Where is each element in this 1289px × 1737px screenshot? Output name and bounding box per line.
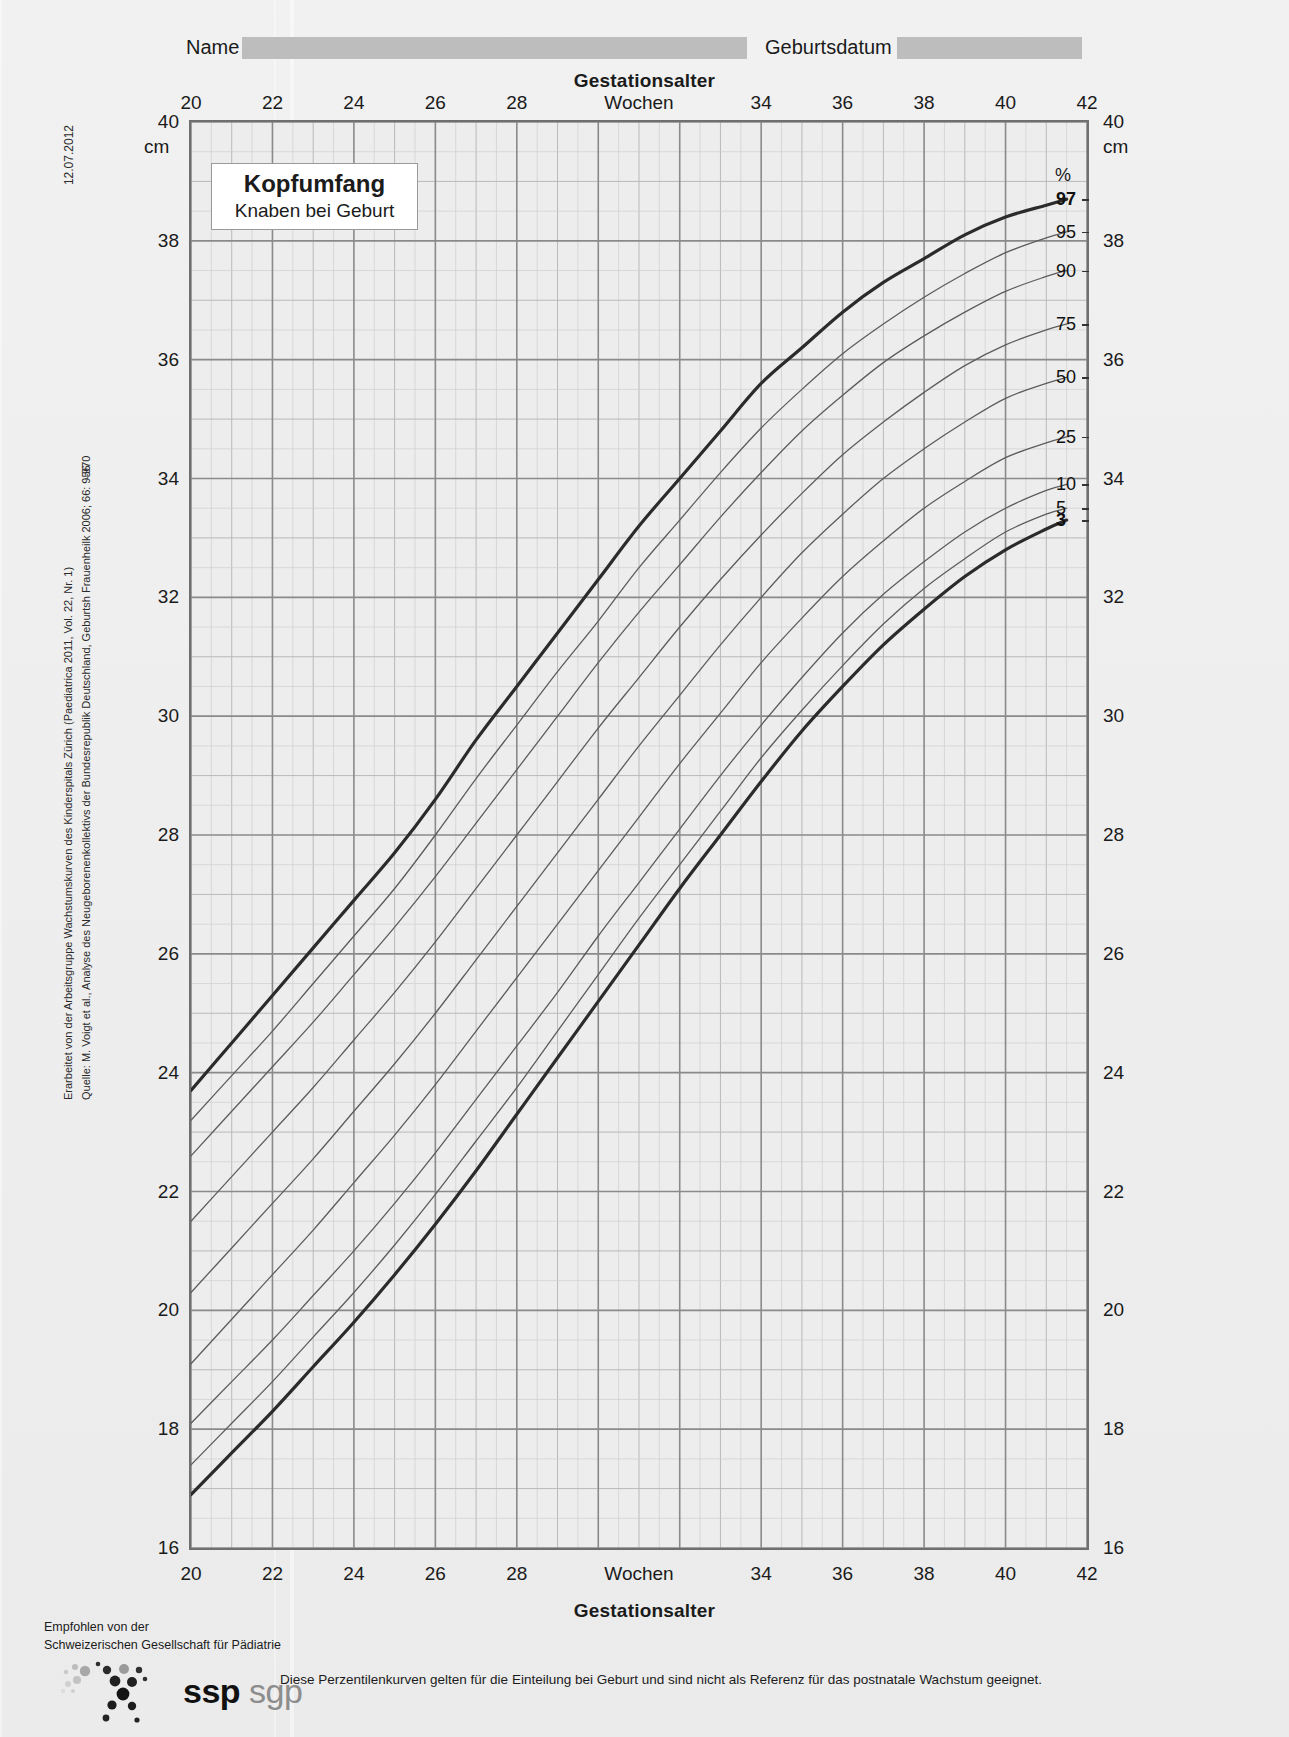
x-tick-22: 22	[262, 92, 283, 114]
chart-plot-area	[189, 120, 1089, 1550]
percentile-tick-97	[1082, 199, 1089, 201]
x-tick-42: 42	[1076, 92, 1097, 114]
x-tick-wochen: Wochen	[604, 1563, 673, 1585]
y-tick-28-left: 28	[141, 824, 179, 846]
y-unit-top-right: cm	[1103, 136, 1128, 158]
y-tick-20-right: 20	[1103, 1299, 1124, 1321]
chart-title-box: Kopfumfang Knaben bei Geburt	[211, 163, 418, 230]
source-note-line2-tail: –970	[80, 456, 92, 480]
x-axis-ticks-top: 2022242628Wochen3436384042	[0, 92, 1289, 116]
y-tick-18-right: 18	[1103, 1418, 1124, 1440]
percentile-label-50: 50	[1056, 367, 1076, 388]
y-tick-20-left: 20	[141, 1299, 179, 1321]
x-tick-38: 38	[914, 1563, 935, 1585]
chart-subtitle: Knaben bei Geburt	[235, 199, 395, 223]
name-input[interactable]	[242, 37, 747, 59]
x-tick-28: 28	[506, 92, 527, 114]
y-tick-32-right: 32	[1103, 586, 1124, 608]
percentile-tick-25	[1082, 437, 1089, 439]
source-note-line1: Erarbeitet von der Arbeitsgruppe Wachstu…	[62, 567, 74, 1100]
chart-grid-and-curves	[191, 122, 1087, 1548]
percentile-label-25: 25	[1056, 426, 1076, 447]
y-tick-34-left: 34	[141, 468, 179, 490]
x-tick-26: 26	[425, 1563, 446, 1585]
y-tick-36-right: 36	[1103, 349, 1124, 371]
x-tick-26: 26	[425, 92, 446, 114]
x-axis-title-top: Gestationsalter	[0, 70, 1289, 92]
y-tick-24-left: 24	[141, 1062, 179, 1084]
y-tick-34-right: 34	[1103, 468, 1124, 490]
x-tick-42: 42	[1076, 1563, 1097, 1585]
percentile-tick-3	[1082, 520, 1089, 522]
y-tick-28-right: 28	[1103, 824, 1124, 846]
y-tick-30-left: 30	[141, 705, 179, 727]
percentile-label-90: 90	[1056, 260, 1076, 281]
recommendation-line1: Empfohlen von der	[44, 1618, 281, 1636]
y-tick-16-left: 16	[141, 1537, 179, 1559]
y-tick-30-right: 30	[1103, 705, 1124, 727]
name-label: Name	[186, 36, 239, 59]
x-tick-34: 34	[751, 92, 772, 114]
y-tick-26-right: 26	[1103, 943, 1124, 965]
x-tick-28: 28	[506, 1563, 527, 1585]
y-tick-32-left: 32	[141, 586, 179, 608]
x-tick-36: 36	[832, 1563, 853, 1585]
percentile-label-10: 10	[1056, 474, 1076, 495]
disclaimer-text: Diese Perzentilenkurven gelten für die E…	[280, 1672, 1042, 1687]
percentile-tick-10	[1082, 484, 1089, 486]
x-tick-34: 34	[751, 1563, 772, 1585]
percentile-label-95: 95	[1056, 221, 1076, 242]
x-tick-36: 36	[832, 92, 853, 114]
y-unit-top-left: cm	[144, 136, 169, 158]
x-tick-40: 40	[995, 92, 1016, 114]
y-tick-16-right: 16	[1103, 1537, 1124, 1559]
chart-title: Kopfumfang	[244, 171, 385, 196]
x-tick-38: 38	[914, 92, 935, 114]
y-tick-38-left: 38	[141, 230, 179, 252]
percentile-label-75: 75	[1056, 314, 1076, 335]
percentile-tick-50	[1082, 377, 1089, 379]
percentile-tick-75	[1082, 324, 1089, 326]
date-stamp: 12.07.2012	[62, 125, 76, 185]
percent-sign-label: %	[1055, 165, 1071, 186]
birthdate-input[interactable]	[897, 37, 1082, 59]
x-tick-40: 40	[995, 1563, 1016, 1585]
x-tick-24: 24	[343, 1563, 364, 1585]
y-tick-40-right: 40	[1103, 111, 1124, 133]
x-tick-24: 24	[343, 92, 364, 114]
y-tick-40-left: 40	[141, 111, 179, 133]
percentile-tick-90	[1082, 271, 1089, 273]
percentile-tick-5	[1082, 508, 1089, 510]
recommendation-note: Empfohlen von der Schweizerischen Gesell…	[44, 1618, 281, 1654]
y-tick-18-left: 18	[141, 1418, 179, 1440]
x-tick-20: 20	[180, 92, 201, 114]
y-tick-24-right: 24	[1103, 1062, 1124, 1084]
y-tick-36-left: 36	[141, 349, 179, 371]
birthdate-label: Geburtsdatum	[765, 36, 892, 59]
percentile-tick-95	[1082, 232, 1089, 234]
source-note-line2: Quelle: M. Voigt et al., Analyse des Neu…	[80, 465, 92, 1100]
y-tick-38-right: 38	[1103, 230, 1124, 252]
percentile-label-3: 3	[1056, 510, 1066, 531]
logo-ssp: ssp	[183, 1672, 240, 1710]
y-tick-22-right: 22	[1103, 1181, 1124, 1203]
x-tick-20: 20	[180, 1563, 201, 1585]
y-tick-22-left: 22	[141, 1181, 179, 1203]
x-tick-22: 22	[262, 1563, 283, 1585]
x-tick-wochen: Wochen	[604, 92, 673, 114]
form-header: Name Geburtsdatum	[0, 34, 1289, 64]
y-tick-26-left: 26	[141, 943, 179, 965]
x-axis-ticks-bottom: 2022242628Wochen3436384042	[0, 1563, 1289, 1587]
percentile-label-97: 97	[1056, 189, 1076, 210]
